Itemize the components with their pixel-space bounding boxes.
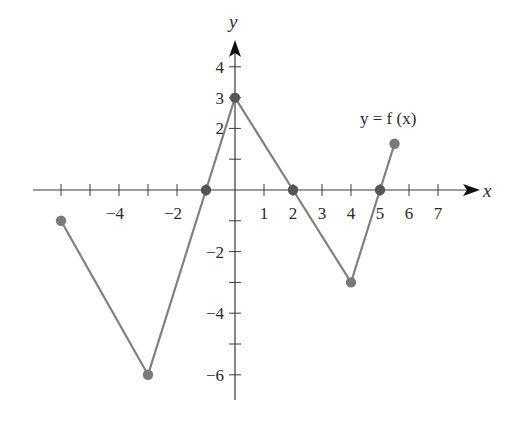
x-intercept-point <box>201 185 211 195</box>
y-axis-label: y <box>227 11 238 32</box>
x-intercept-point <box>288 185 298 195</box>
y-tick-label: −2 <box>206 243 224 262</box>
x-tick-label: −2 <box>164 204 182 223</box>
y-tick-label: 3 <box>216 89 225 108</box>
x-tick-label: 2 <box>289 204 298 223</box>
x-axis-label: x <box>482 180 492 201</box>
x-tick-label: 3 <box>318 204 327 223</box>
function-curve <box>61 98 395 375</box>
data-points <box>56 92 400 380</box>
x-tick-label: 1 <box>260 204 269 223</box>
tick-labels: −4−21234567432−2−4−6 <box>106 58 443 385</box>
x-tick-label: 7 <box>434 204 443 223</box>
curve-line <box>61 98 395 375</box>
x-tick-label: 6 <box>405 204 414 223</box>
vertex-point <box>346 277 356 287</box>
vertex-point <box>143 370 153 380</box>
y-tick-label: 4 <box>216 58 225 77</box>
x-tick-label: 5 <box>376 204 385 223</box>
y-tick-label: −4 <box>206 304 225 323</box>
curve-label: y = f (x) <box>360 109 416 128</box>
x-tick-label: 4 <box>347 204 356 223</box>
endpoint-point <box>389 139 399 149</box>
x-intercept-point <box>375 185 385 195</box>
x-tick-label: −4 <box>106 204 125 223</box>
y-tick-label: −6 <box>206 366 224 385</box>
endpoint-point <box>56 216 66 226</box>
y-intercept-point <box>230 92 240 102</box>
function-graph: −4−21234567432−2−4−6 x y y = f (x) <box>0 0 519 425</box>
